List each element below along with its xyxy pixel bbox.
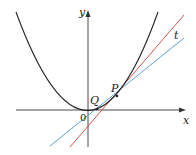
y-axis-label: y [78,6,86,19]
point-p-label: P [110,82,119,95]
x-axis-label: x [183,114,190,127]
origin-label: 0 [80,112,86,123]
diagram-canvas: y x 0 P Q t [0,0,196,155]
point-p [116,95,119,98]
tangent-line-label: t [174,29,179,42]
point-q-label: Q [90,94,99,107]
tangent-line [70,15,184,147]
parabola-curve [16,12,158,111]
point-q [96,108,99,111]
